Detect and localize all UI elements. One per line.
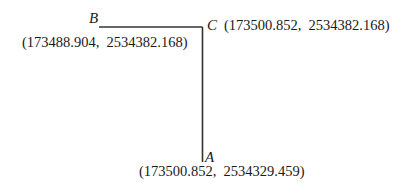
point-b-label: B (89, 11, 98, 26)
point-c-coords: (173500.852, 2534382.168) (224, 18, 390, 33)
point-c-label: C (207, 18, 217, 33)
point-a-coords: (173500.852, 2534329.459) (139, 164, 305, 179)
point-b-coords: (173488.904, 2534382.168) (22, 35, 188, 50)
coordinate-diagram: B (173488.904, 2534382.168) C (173500.85… (0, 0, 405, 190)
